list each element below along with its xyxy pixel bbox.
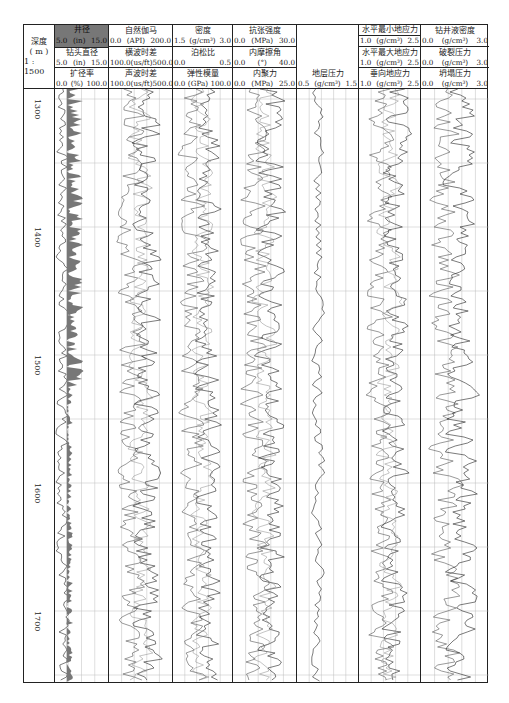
depth-label: 1300 [33, 99, 42, 119]
shmax-scale: 1.0(g/cm³)2.5 [359, 58, 420, 68]
caliper-curve-plot [55, 89, 108, 682]
track6-header: 水平最小地应力 1.0(g/cm³)2.5 水平最大地应力 1.0(g/cm³)… [359, 25, 421, 88]
depth-track: 1300 1400 1500 1600 1700 [24, 89, 55, 682]
cohesion-name: 内聚力 [233, 68, 296, 79]
elastic-curve-plot [173, 89, 232, 682]
track1-curves [55, 89, 109, 682]
enlargement-name: 扩径率 [55, 68, 108, 79]
frac-pressure-name: 破裂压力 [421, 47, 489, 58]
track1-header: 井径 5.0(in)15.0 钻头直径 5.0(in)15.0 扩径率 0.0(… [55, 25, 109, 88]
youngs-scale: 0.0(GPa)100.0 [173, 79, 232, 89]
strength-curve-plot [233, 89, 296, 682]
caliper-name: 井径 [55, 25, 108, 35]
friction-angle-scale: 0.0(°)40.0 [233, 58, 296, 68]
track2-header: 自然伽马 0.0(API)200.0 横波时差 100.0(us/ft)500.… [109, 25, 173, 88]
depth-header: 深度 ( m ) 1 : 1500 [24, 25, 55, 88]
track5-header: 地层压力 0.5(g/cm³)1.5 [297, 25, 359, 88]
acoustic-curve-plot [109, 89, 172, 682]
track6-curves [359, 89, 421, 682]
shmin-name: 水平最小地应力 [359, 25, 420, 36]
track3-curves [173, 89, 233, 682]
cohesion-scale: 0.0(MPa)25.0 [233, 79, 296, 89]
log-plot-frame: 深度 ( m ) 1 : 1500 井径 5.0(in)15.0 钻头直径 5.… [23, 24, 488, 683]
shmin-scale: 1.0(g/cm³)2.5 [359, 36, 420, 47]
log-plot-area: 1300 1400 1500 1600 1700 [24, 89, 487, 682]
mud-window-curve-plot [421, 89, 489, 682]
pore-pressure-name: 地层压力 [297, 68, 358, 79]
dtc-name: 声波时差 [109, 68, 172, 79]
mud-weight-name: 钻井液密度 [421, 25, 489, 36]
density-scale: 1.5(g/cm³)3.0 [173, 36, 232, 47]
tensile-name: 抗张强度 [233, 25, 296, 36]
sv-name: 垂向地应力 [359, 68, 420, 79]
depth-label: 1500 [33, 355, 42, 375]
track4-curves [233, 89, 297, 682]
dts-scale: 100.0(us/ft)500.0 [109, 58, 172, 68]
depth-label: 1400 [33, 227, 42, 247]
track5-curves [297, 89, 359, 682]
youngs-name: 弹性模量 [173, 68, 232, 79]
poisson-scale: 0.00.5 [173, 58, 232, 68]
track7-header: 钻井液密度 0.0(g/cm³)3.0 破裂压力 0.0(g/cm³)3.0 坍… [421, 25, 489, 88]
shmax-name: 水平最大地应力 [359, 47, 420, 58]
mud-weight-scale: 0.0(g/cm³)3.0 [421, 36, 489, 47]
bit-size-scale: 5.0(in)15.0 [55, 58, 108, 68]
collapse-pressure-scale: 0.0(g/cm³)3.0 [421, 79, 489, 89]
poisson-name: 泊松比 [173, 47, 232, 58]
enlargement-scale: 0.0(%)100.0 [55, 79, 108, 89]
density-name: 密度 [173, 25, 232, 36]
pore-pressure-scale: 0.5(g/cm³)1.5 [297, 79, 358, 89]
dtc-scale: 100.0(us/ft)500.0 [109, 79, 172, 89]
depth-unit: ( m ) [30, 47, 49, 57]
track3-header: 密度 1.5(g/cm³)3.0 泊松比 0.00.5 弹性模量 0.0(GPa… [173, 25, 233, 88]
depth-label: 1700 [33, 611, 42, 631]
gr-name: 自然伽马 [109, 25, 172, 36]
bit-size-name: 钻头直径 [55, 48, 108, 58]
depth-label: 1600 [33, 483, 42, 503]
sv-scale: 1.0(g/cm³)2.5 [359, 79, 420, 89]
track4-header: 抗张强度 0.0(MPa)30.0 内摩擦角 0.0(°)40.0 内聚力 0.… [233, 25, 297, 88]
collapse-pressure-name: 坍塌压力 [421, 68, 489, 79]
caliper-scale: 5.0(in)15.0 [55, 35, 108, 48]
depth-scale: 1 : 1500 [24, 57, 54, 77]
track2-curves [109, 89, 173, 682]
tensile-scale: 0.0(MPa)30.0 [233, 36, 296, 47]
pore-pressure-curve-plot [297, 89, 358, 682]
gr-scale: 0.0(API)200.0 [109, 36, 172, 47]
friction-angle-name: 内摩擦角 [233, 47, 296, 58]
stress-curve-plot [359, 89, 420, 682]
frac-pressure-scale: 0.0(g/cm³)3.0 [421, 58, 489, 68]
depth-title: 深度 [31, 37, 47, 47]
log-header: 深度 ( m ) 1 : 1500 井径 5.0(in)15.0 钻头直径 5.… [24, 25, 487, 89]
track7-curves [421, 89, 489, 682]
dts-name: 横波时差 [109, 47, 172, 58]
